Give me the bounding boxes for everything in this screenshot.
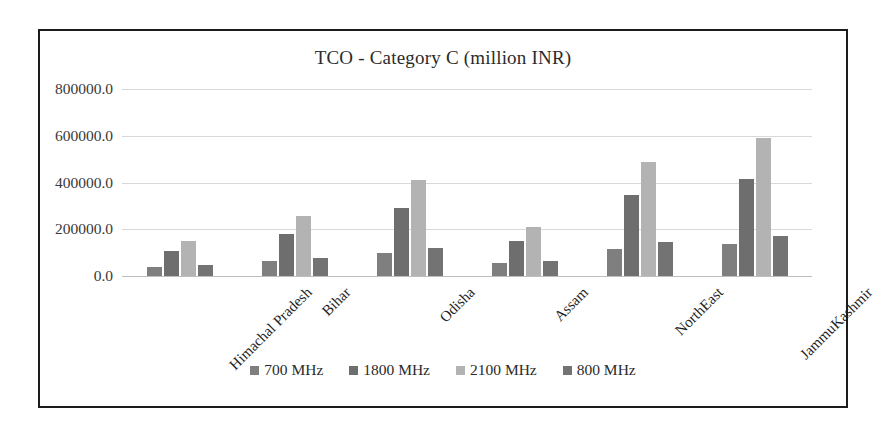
bar bbox=[181, 241, 196, 276]
bar bbox=[543, 261, 558, 276]
bar-group bbox=[262, 89, 328, 276]
bar bbox=[147, 267, 162, 276]
y-axis-tick-label: 200000.0 bbox=[55, 220, 113, 238]
legend-item[interactable]: 800 MHz bbox=[563, 361, 636, 379]
y-axis-tick-label: 600000.0 bbox=[55, 127, 113, 145]
bar bbox=[641, 162, 656, 276]
bar bbox=[411, 180, 426, 276]
legend-swatch-icon bbox=[563, 366, 572, 375]
bar-group bbox=[722, 89, 788, 276]
y-axis-tick-label: 400000.0 bbox=[55, 174, 113, 192]
legend-label: 800 MHz bbox=[577, 361, 636, 379]
legend-label: 700 MHz bbox=[264, 361, 323, 379]
bar bbox=[624, 195, 639, 276]
legend-swatch-icon bbox=[250, 366, 259, 375]
bar bbox=[509, 241, 524, 276]
bar bbox=[739, 179, 754, 276]
bar bbox=[492, 263, 507, 276]
y-axis-tick-label: 800000.0 bbox=[55, 80, 113, 98]
gridline bbox=[122, 276, 812, 277]
bar-group bbox=[492, 89, 558, 276]
x-axis-tick-label: JammuKashmir bbox=[796, 284, 875, 363]
legend-item[interactable]: 1800 MHz bbox=[349, 361, 430, 379]
legend-item[interactable]: 2100 MHz bbox=[456, 361, 537, 379]
legend-swatch-icon bbox=[456, 366, 465, 375]
chart-title: TCO - Category C (million INR) bbox=[40, 47, 846, 69]
bar bbox=[377, 253, 392, 276]
bar bbox=[773, 236, 788, 276]
bar bbox=[296, 216, 311, 276]
bar-group bbox=[607, 89, 673, 276]
chart-frame: TCO - Category C (million INR) 0.0200000… bbox=[38, 29, 848, 408]
bars-layer bbox=[122, 89, 812, 276]
legend-label: 1800 MHz bbox=[363, 361, 430, 379]
bar bbox=[658, 242, 673, 276]
x-axis-tick-label: Bihar bbox=[318, 284, 354, 320]
bar bbox=[756, 138, 771, 276]
x-axis-tick-label: Assam bbox=[550, 284, 591, 325]
bar bbox=[279, 234, 294, 276]
bar bbox=[394, 208, 409, 276]
x-axis-tick-label: NorthEast bbox=[671, 284, 726, 339]
chart-legend: 700 MHz1800 MHz2100 MHz800 MHz bbox=[40, 361, 846, 379]
bar bbox=[262, 261, 277, 276]
bar-group bbox=[377, 89, 443, 276]
bar-group bbox=[147, 89, 213, 276]
legend-item[interactable]: 700 MHz bbox=[250, 361, 323, 379]
plot-area: 0.0200000.0400000.0600000.0800000.0 bbox=[122, 89, 812, 276]
legend-swatch-icon bbox=[349, 366, 358, 375]
bar bbox=[198, 265, 213, 276]
bar bbox=[607, 249, 622, 276]
y-axis-tick-label: 0.0 bbox=[94, 267, 113, 285]
bar bbox=[164, 251, 179, 276]
bar bbox=[428, 248, 443, 276]
legend-label: 2100 MHz bbox=[470, 361, 537, 379]
bar bbox=[722, 244, 737, 276]
bar bbox=[526, 227, 541, 276]
bar bbox=[313, 258, 328, 276]
x-axis-tick-label: Odisha bbox=[436, 284, 478, 326]
